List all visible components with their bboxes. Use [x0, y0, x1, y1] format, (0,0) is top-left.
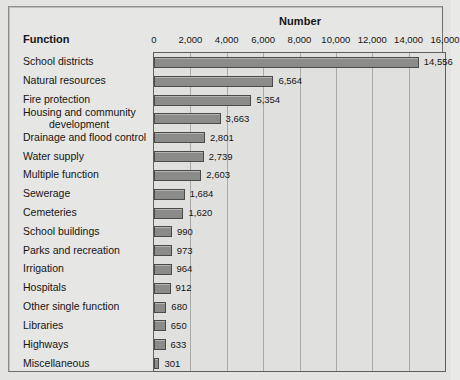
x-tick-label: 4,000: [215, 34, 239, 45]
category-label-line: School buildings: [23, 225, 151, 238]
category-label: Fire protection: [23, 93, 151, 106]
x-tick-label: 0: [151, 34, 156, 45]
category-label: School buildings: [23, 225, 151, 238]
category-label-line: Fire protection: [23, 93, 151, 106]
category-label-line: Natural resources: [23, 74, 151, 87]
bar-value-label: 3,663: [226, 112, 250, 123]
x-tick-label: 14,000: [394, 34, 423, 45]
value-labels-layer: 14,5566,5645,3543,6632,8012,7392,6031,68…: [153, 52, 460, 372]
category-label-line: Multiple function: [23, 168, 151, 181]
category-label: School districts: [23, 55, 151, 68]
category-labels-layer: School districtsNatural resourcesFire pr…: [23, 52, 151, 372]
bar-value-label: 633: [171, 338, 187, 349]
x-tick-label: 10,000: [321, 34, 350, 45]
category-label-line: Parks and recreation: [23, 243, 151, 256]
category-label: Natural resources: [23, 74, 151, 87]
x-tick-label: 8,000: [288, 34, 312, 45]
category-label-line: Water supply: [23, 149, 151, 162]
category-label: Multiple function: [23, 168, 151, 181]
category-label: Other single function: [23, 300, 151, 313]
category-label-line: Sewerage: [23, 187, 151, 200]
category-label: Libraries: [23, 319, 151, 332]
bar-value-label: 990: [177, 225, 193, 236]
category-label-line: Other single function: [23, 300, 151, 313]
bar-value-label: 2,801: [210, 131, 234, 142]
x-tick-label: 12,000: [358, 34, 387, 45]
category-label-line: Hospitals: [23, 281, 151, 294]
x-axis-tick-labels: 02,0004,0006,0008,00010,00012,00014,0001…: [153, 34, 446, 48]
chart-frame: Number Function 02,0004,0006,0008,00010,…: [8, 6, 443, 372]
bar-value-label: 2,603: [206, 169, 230, 180]
bar-value-label: 5,354: [256, 94, 280, 105]
category-label-line: Irrigation: [23, 262, 151, 275]
bar-value-label: 973: [177, 244, 193, 255]
bar-value-label: 301: [164, 357, 180, 368]
category-label: Sewerage: [23, 187, 151, 200]
category-label: Parks and recreation: [23, 243, 151, 256]
category-label: Water supply: [23, 149, 151, 162]
bar-value-label: 2,739: [209, 150, 233, 161]
category-axis-header: Function: [23, 33, 69, 45]
category-label: Drainage and flood control: [23, 130, 151, 143]
category-label-line: Highways: [23, 338, 151, 351]
bar-value-label: 14,556: [424, 56, 453, 67]
bar-value-label: 650: [171, 319, 187, 330]
category-label-line: Miscellaneous: [23, 356, 151, 369]
bar-value-label: 680: [171, 301, 187, 312]
bar-value-label: 964: [177, 263, 193, 274]
category-label-line: Libraries: [23, 319, 151, 332]
category-label-line: Housing and community: [23, 105, 151, 118]
bar-value-label: 1,684: [190, 188, 214, 199]
x-tick-label: 2,000: [178, 34, 202, 45]
bar-value-label: 1,620: [188, 207, 212, 218]
category-label: Housing and communitydevelopment: [23, 105, 151, 130]
chart-title: Number: [153, 15, 447, 27]
category-label: Highways: [23, 338, 151, 351]
category-label: Hospitals: [23, 281, 151, 294]
category-label-line: School districts: [23, 55, 151, 68]
category-label-line: Drainage and flood control: [23, 130, 151, 143]
category-label: Irrigation: [23, 262, 151, 275]
category-label: Miscellaneous: [23, 356, 151, 369]
x-tick-label: 6,000: [251, 34, 275, 45]
category-label-line: development: [23, 118, 151, 131]
bar-value-label: 6,564: [278, 75, 302, 86]
category-label-line: Cemeteries: [23, 206, 151, 219]
category-label: Cemeteries: [23, 206, 151, 219]
x-tick-label: 16,000: [430, 34, 459, 45]
bar-value-label: 912: [176, 282, 192, 293]
